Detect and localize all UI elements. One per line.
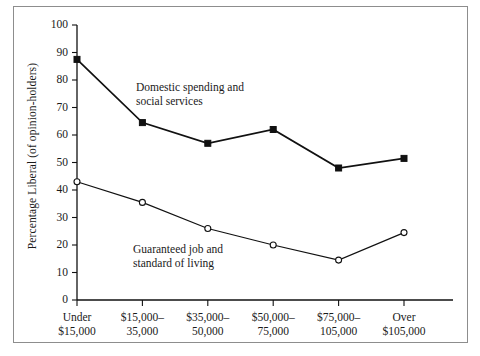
data-point-marker xyxy=(401,230,407,236)
annotation-domestic-spending: Domestic spending andsocial services xyxy=(136,80,244,108)
data-point-marker xyxy=(139,120,145,126)
data-point-marker xyxy=(336,165,342,171)
annotation-line: Guaranteed job and xyxy=(133,242,223,256)
series-line xyxy=(77,182,404,260)
series-line xyxy=(77,59,404,168)
axes xyxy=(72,25,453,306)
annotation-line: Domestic spending and xyxy=(136,80,244,94)
series-guaranteed-job xyxy=(74,179,407,263)
annotation-line: standard of living xyxy=(133,256,223,270)
data-point-marker xyxy=(74,179,80,185)
annotation-guaranteed-job: Guaranteed job andstandard of living xyxy=(133,242,223,270)
data-point-marker xyxy=(270,242,276,248)
data-point-marker xyxy=(401,155,407,161)
data-point-marker xyxy=(205,140,211,146)
data-point-marker xyxy=(336,257,342,263)
annotation-line: social services xyxy=(136,94,244,108)
data-point-marker xyxy=(205,226,211,232)
series-domestic-spending xyxy=(74,56,407,171)
chart-figure: Percentage Liberal (of opinion-holders) … xyxy=(0,0,480,356)
data-point-marker xyxy=(74,56,80,62)
plot-area xyxy=(0,0,480,356)
data-point-marker xyxy=(270,127,276,133)
data-point-marker xyxy=(139,199,145,205)
